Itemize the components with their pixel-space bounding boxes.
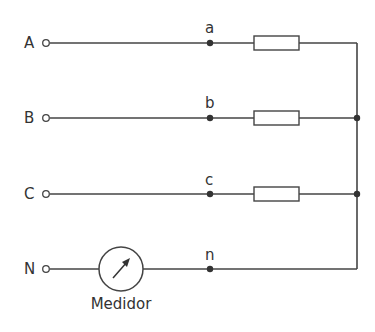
terminal-n-icon	[43, 266, 50, 273]
terminal-label-c: C	[24, 185, 34, 203]
phase-a-branch: A a	[24, 19, 357, 52]
terminal-label-n: N	[24, 260, 35, 278]
junction-c-dot	[354, 191, 360, 197]
node-c-dot	[207, 191, 213, 197]
node-label-c: c	[205, 171, 213, 189]
terminal-label-a: A	[24, 34, 35, 52]
circuit-diagram: A a B b C c N n	[0, 0, 375, 332]
terminal-a-icon	[43, 40, 50, 47]
resistor-c-icon	[254, 187, 299, 201]
junction-b-dot	[354, 115, 360, 121]
resistor-a-icon	[254, 36, 299, 50]
terminal-c-icon	[43, 191, 50, 198]
node-label-n: n	[205, 246, 215, 264]
terminal-b-icon	[43, 115, 50, 122]
neutral-branch: N n Medidor	[24, 246, 357, 313]
terminal-label-b: B	[24, 109, 34, 127]
star-point-bus	[354, 43, 360, 269]
node-label-a: a	[205, 19, 214, 37]
meter-icon	[99, 247, 143, 291]
node-label-b: b	[205, 94, 215, 112]
meter-label: Medidor	[91, 295, 153, 313]
node-a-dot	[207, 40, 213, 46]
phase-c-branch: C c	[24, 171, 357, 203]
phase-b-branch: B b	[24, 94, 357, 127]
node-n-dot	[207, 266, 213, 272]
resistor-b-icon	[254, 111, 299, 125]
node-b-dot	[207, 115, 213, 121]
